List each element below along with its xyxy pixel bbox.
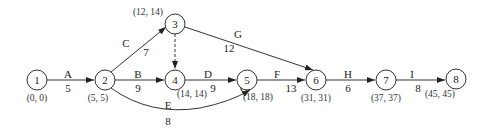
- activity-a-name: A: [64, 68, 72, 80]
- node-5-times: (18, 18): [243, 92, 273, 103]
- activity-c-name: C: [122, 37, 129, 49]
- activity-c-duration: 7: [143, 46, 149, 58]
- node-7: 7: [376, 70, 396, 90]
- activity-h-name: H: [344, 68, 352, 80]
- activity-a-duration: 5: [65, 82, 71, 94]
- activity-d-duration: 9: [210, 82, 216, 94]
- activity-b-duration: 9: [135, 82, 141, 94]
- node-4-times: (14, 14): [177, 89, 207, 100]
- node-5-label: 5: [244, 74, 250, 86]
- activity-g-arrow: [185, 27, 313, 70]
- activity-f-name: F: [274, 68, 280, 80]
- node-8-label: 8: [453, 73, 459, 85]
- node-6: 6: [306, 70, 326, 90]
- node-8-times: (45, 45): [425, 89, 455, 100]
- node-7-times: (37, 37): [371, 93, 401, 104]
- activity-e-name: E: [165, 99, 172, 111]
- node-4-label: 4: [172, 74, 178, 86]
- activity-g-name: G: [234, 28, 242, 40]
- node-3-label: 3: [172, 18, 178, 30]
- activity-i-name: I: [410, 68, 414, 80]
- activity-h-duration: 6: [345, 82, 351, 94]
- activity-f-duration: 13: [286, 82, 298, 94]
- node-2-times: (5, 5): [88, 93, 109, 104]
- node-1-times: (0, 0): [27, 93, 48, 104]
- node-3-times: (12, 14): [133, 7, 163, 18]
- activity-e-duration: 8: [165, 115, 171, 127]
- node-4: 4: [165, 70, 185, 90]
- network-diagram: A 5 B 9 C 7 D 9 E 8 F 13 G 12 H 6 I 8 G …: [0, 0, 489, 134]
- node-2: 2: [95, 70, 115, 90]
- node-7-label: 7: [383, 74, 389, 86]
- activity-g-duration: 12: [224, 42, 235, 54]
- activity-b-name: B: [134, 68, 141, 80]
- activity-d-name: D: [204, 68, 212, 80]
- activity-c-arrow: [111, 27, 166, 72]
- node-5: 5: [237, 70, 257, 90]
- node-8: 8: [446, 69, 466, 89]
- node-6-times: (31, 31): [301, 93, 331, 104]
- node-1-label: 1: [34, 74, 40, 86]
- node-2-label: 2: [102, 74, 108, 86]
- activity-i-duration: 8: [415, 82, 421, 94]
- node-6-label: 6: [313, 74, 319, 86]
- node-3: 3: [165, 14, 185, 34]
- node-1: 1: [27, 70, 47, 90]
